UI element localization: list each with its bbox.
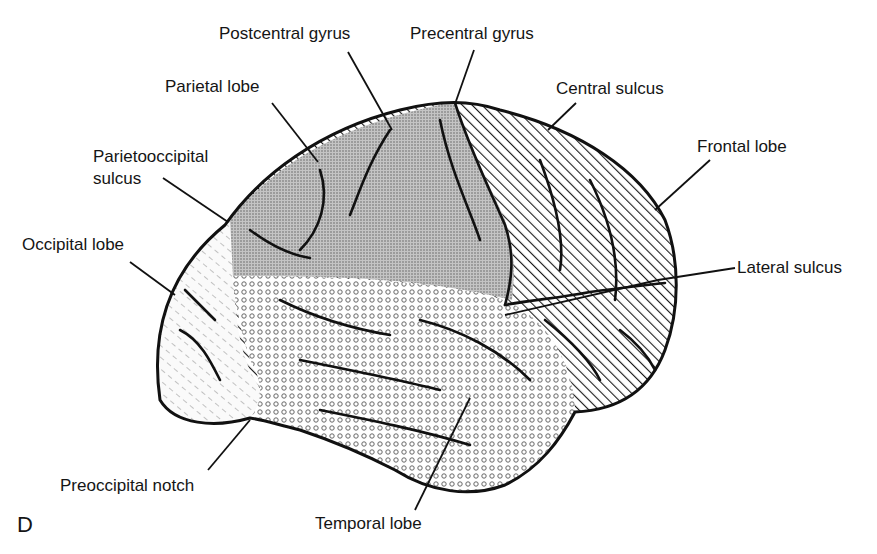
label-parietooccipital-sulcus-line1: Parietooccipital: [93, 147, 208, 167]
label-frontal-lobe: Frontal lobe: [697, 137, 787, 157]
label-parietal-lobe: Parietal lobe: [165, 77, 260, 97]
label-postcentral-gyrus: Postcentral gyrus: [219, 24, 350, 44]
label-precentral-gyrus: Precentral gyrus: [410, 24, 534, 44]
panel-letter: D: [17, 512, 33, 538]
label-central-sulcus: Central sulcus: [556, 79, 664, 99]
label-lateral-sulcus: Lateral sulcus: [737, 258, 842, 278]
label-occipital-lobe: Occipital lobe: [22, 235, 124, 255]
label-temporal-lobe: Temporal lobe: [315, 514, 422, 534]
brain-diagram: Postcentral gyrus Precentral gyrus Parie…: [0, 0, 877, 554]
label-preoccipital-notch: Preoccipital notch: [60, 476, 194, 496]
label-parietooccipital-sulcus-line2: sulcus: [93, 169, 141, 189]
